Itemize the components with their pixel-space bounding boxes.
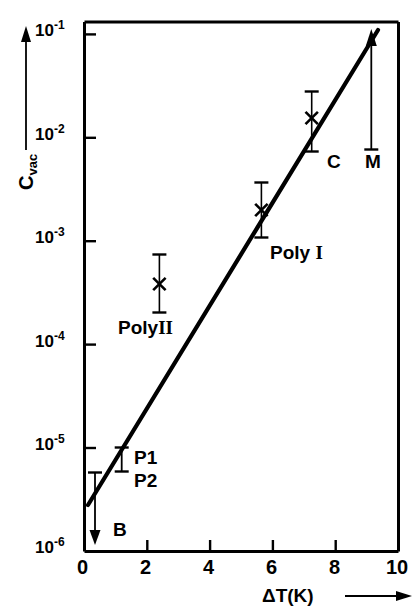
x-tick-label-1: 2 [140, 557, 151, 577]
x-tick-label-4: 8 [329, 557, 340, 577]
poly-i-roman: I [315, 242, 322, 263]
y-tick-exp-3: -4 [54, 329, 65, 343]
y-tick-label-5: 10-6 [35, 539, 65, 556]
datapoint-poly-ii [152, 254, 166, 313]
y-axis-ticks [85, 34, 97, 448]
chart-canvas [0, 0, 419, 616]
errorbar-label-p1: P1 [134, 448, 157, 467]
y-tick-label-3: 10-4 [35, 333, 65, 350]
poly-ii-text: Poly [118, 317, 158, 338]
datapoint-label-poly-i: Poly I [270, 243, 323, 262]
y-axis-title-sub: vac [25, 154, 40, 176]
y-tick-label-0: 10-1 [35, 22, 65, 39]
x-tick-label-5: 10 [386, 557, 408, 577]
errorbar-label-p2: P2 [134, 471, 157, 490]
y-axis-title-main: C [15, 176, 37, 190]
datapoint-label-poly-ii: PolyII [118, 318, 173, 337]
trend-line [88, 30, 378, 505]
y-axis-title-wrap: Cvac [9, 120, 49, 190]
limit-label-b: B [113, 520, 127, 539]
y-tick-label-2: 10-3 [35, 229, 65, 246]
limit-label-m: M [365, 152, 381, 171]
y-tick-exp-2: -3 [54, 225, 65, 239]
x-axis-arrow [345, 591, 412, 601]
y-tick-exp-1: -2 [54, 122, 65, 136]
y-tick-exp-0: -1 [54, 18, 65, 32]
poly-ii-roman: II [158, 317, 173, 338]
datapoint-label-c: C [327, 152, 341, 171]
y-axis-title: Cvac [15, 154, 38, 190]
y-tick-label-4: 10-5 [35, 436, 65, 453]
y-tick-exp-5: -6 [54, 535, 65, 549]
x-tick-label-3: 6 [266, 557, 277, 577]
figure-container: 10-1 10-2 10-3 10-4 10-5 10-6 0 2 4 6 8 … [0, 0, 419, 616]
x-axis-title: ΔT(K) [262, 586, 314, 605]
poly-i-text: Poly [270, 242, 310, 263]
plot-frame [85, 22, 399, 552]
y-tick-exp-4: -5 [54, 432, 65, 446]
x-axis-ticks [147, 540, 335, 552]
x-tick-label-2: 4 [203, 557, 214, 577]
x-tick-label-0: 0 [77, 557, 88, 577]
